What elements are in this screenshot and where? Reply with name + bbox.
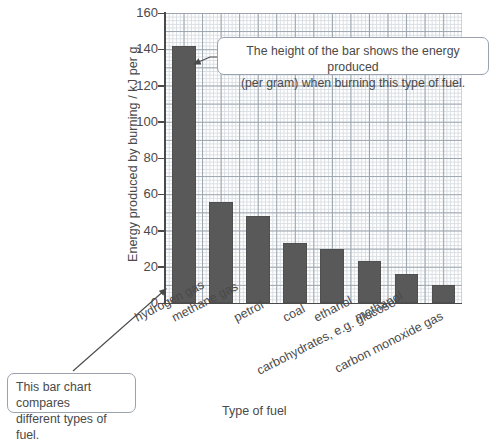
y-tick-mark-120 [158,85,165,87]
callout-bar-height-line2: (per gram) when burning this type of fue… [226,75,480,91]
bar-hydrogen-gas[interactable] [172,46,196,303]
x-tick-label-coal: coal [281,303,307,325]
callout-bar-height-line1: The height of the bar shows the energy p… [226,43,480,75]
bar-ethanol[interactable] [320,249,344,303]
y-tick-mark-80 [158,158,165,160]
callout-chart-purpose: This bar chart compares different types … [7,373,136,413]
y-tick-label-text: 160 [118,6,158,19]
x-axis-title: Type of fuel [222,404,287,418]
bar-carbon-monoxide-gas[interactable] [432,285,456,303]
y-tick-label-160: 160 [112,6,158,19]
bar-methanol[interactable] [358,261,382,303]
y-tick-mark-160 [158,13,165,15]
bar-petrol[interactable] [246,216,270,303]
y-tick-mark-20 [158,266,165,268]
y-tick-mark-40 [158,230,165,232]
y-tick-mark-60 [158,194,165,196]
callout-bar-height: The height of the bar shows the energy p… [217,37,489,75]
y-tick-mark-140 [158,49,165,51]
callout-chart-purpose-line1: This bar chart compares [16,379,127,411]
bar-coal[interactable] [283,243,307,303]
callout-chart-purpose-line2: different types of fuel. [16,411,127,443]
y-axis-title: Energy produced by burning / kJ per g [126,38,142,270]
y-tick-mark-100 [158,121,165,123]
